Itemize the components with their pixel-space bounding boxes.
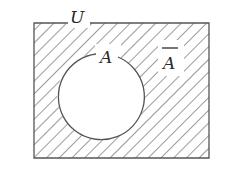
venn-diagram: U A A [0,0,226,175]
set-a-label: A [98,47,112,67]
universal-set-label: U [70,7,85,27]
complement-label: A [161,53,175,73]
